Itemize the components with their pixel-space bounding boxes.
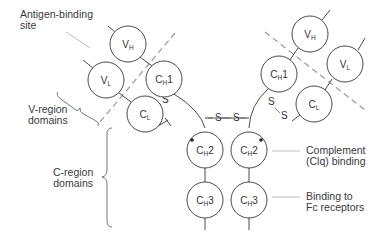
ss-hinge-right: S bbox=[233, 112, 240, 123]
ss-right-bottom: S bbox=[281, 110, 288, 121]
c-region-label: C-region domains bbox=[53, 167, 93, 189]
complement-binding-label: Complement (Clq) binding bbox=[306, 145, 366, 167]
antigen-binding-site-label: Antigen-binding site bbox=[20, 9, 93, 31]
c-region-bracket bbox=[102, 128, 112, 227]
fc-receptor-binding-label: Binding to Fc receptors bbox=[306, 191, 364, 213]
ss-right-top: S bbox=[268, 96, 275, 107]
antigen-site-pointer bbox=[66, 32, 90, 48]
v-region-label: V-region domains bbox=[28, 104, 68, 126]
left-ch2-dot bbox=[190, 138, 194, 142]
ss-hinge-left: S bbox=[215, 112, 222, 123]
right-ch2-dot bbox=[259, 138, 263, 142]
